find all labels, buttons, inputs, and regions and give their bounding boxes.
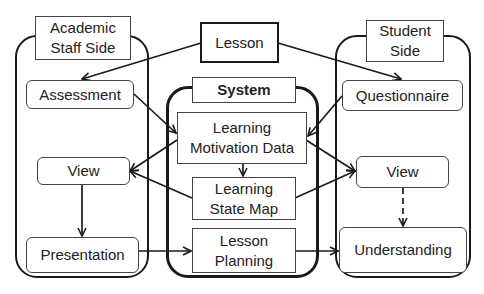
- system-label: System: [192, 77, 296, 103]
- academic-staff-side-label: Academic Staff Side: [35, 16, 131, 60]
- assessment-node: Assessment: [26, 80, 134, 109]
- presentation-node: Presentation: [26, 237, 139, 273]
- lesson-planning-node: Lesson Planning: [192, 228, 296, 273]
- learning-motivation-data-node: Learning Motivation Data: [177, 112, 307, 164]
- questionnaire-node: Questionnaire: [342, 80, 463, 111]
- arrow-assessment-to-lmd: [134, 94, 176, 133]
- arrow-lsm-to-view-staff: [130, 171, 192, 198]
- understanding-node: Understanding: [339, 227, 467, 273]
- arrow-lmd-to-view-staff: [130, 140, 177, 171]
- arrow-lsm-to-view-student: [295, 171, 355, 198]
- view-staff-node: View: [37, 157, 130, 185]
- arrow-questionnaire-to-lmd: [308, 96, 342, 136]
- student-side-label: Student Side: [366, 20, 444, 62]
- arrow-lmd-to-view-student: [306, 140, 355, 171]
- lesson-node: Lesson: [200, 22, 279, 63]
- view-student-node: View: [356, 156, 449, 188]
- learning-state-map-node: Learning State Map: [192, 177, 296, 220]
